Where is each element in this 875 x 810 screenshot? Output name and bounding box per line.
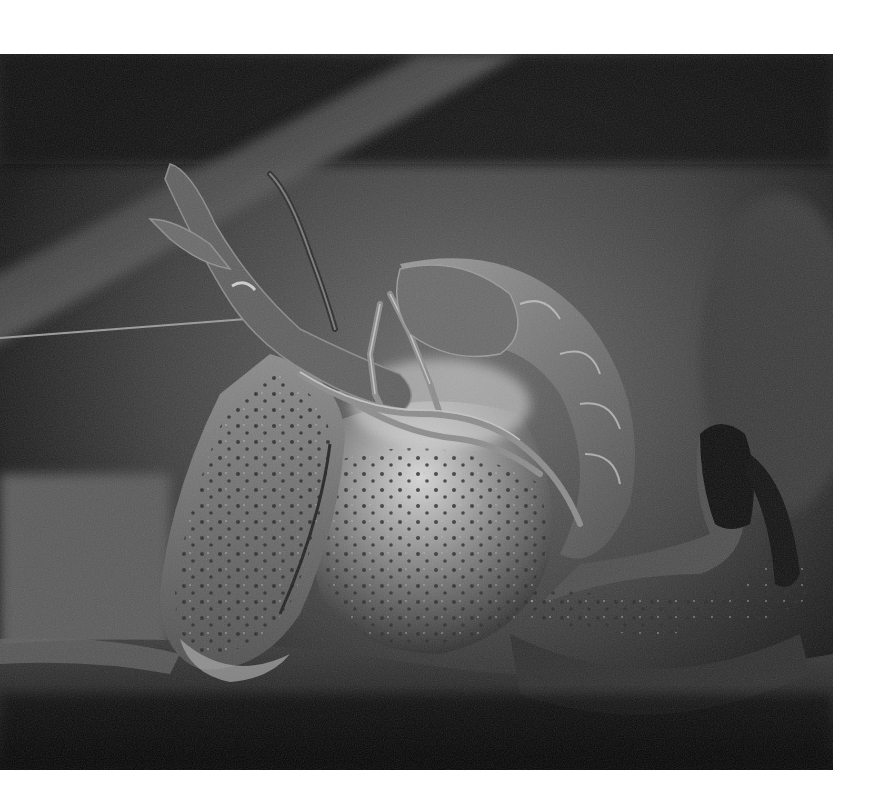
- film-grain: [0, 54, 833, 770]
- crayfish-photograph: Grayscale photograph of a crayfish curle…: [0, 54, 833, 770]
- photo-canvas: [0, 54, 833, 770]
